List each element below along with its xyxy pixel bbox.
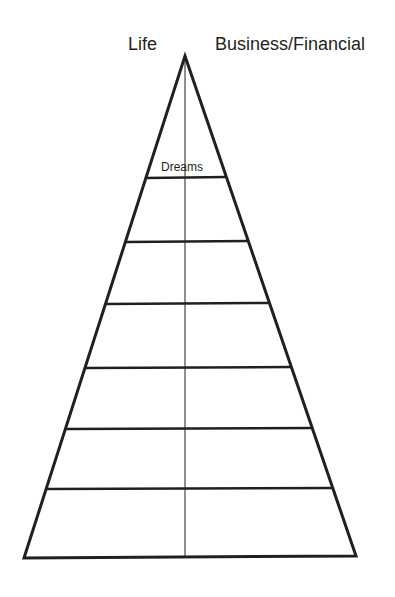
level-divider-line-5 <box>65 428 312 429</box>
pyramid-diagram <box>0 0 395 597</box>
level-divider-line-3 <box>105 303 269 304</box>
level-divider-line-2 <box>125 241 248 242</box>
level-divider-line-6 <box>46 488 333 489</box>
level-label-dreams: Dreams <box>161 160 203 174</box>
level-divider-line-1 <box>146 177 227 178</box>
pyramid-outline <box>24 56 356 558</box>
level-divider-line-4 <box>85 367 292 368</box>
